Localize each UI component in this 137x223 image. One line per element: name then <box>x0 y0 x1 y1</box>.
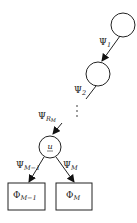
leaf-m-label: ΦM <box>66 190 80 202</box>
edge-psi1-label: Ψ1 <box>99 37 111 49</box>
edge-psi-rm-label: ΨRM <box>38 111 57 123</box>
tree-diagram: Ψ1 Ψ2 ΨRM u ΨM−1 ΨM ΦM−1 ΦM <box>0 0 137 223</box>
node-1-circle <box>111 13 135 37</box>
edge-psi-rm-arrow <box>53 123 62 134</box>
edge-psi2-label: Ψ2 <box>74 85 86 97</box>
vertical-ellipsis <box>76 105 78 117</box>
node-2-circle <box>86 62 110 86</box>
edge-psi2-line <box>86 86 96 99</box>
node-u-label: u <box>48 142 53 151</box>
edge-psi-m-1-label: ΨM−1 <box>16 160 40 172</box>
leaf-m-minus-1-label: ΦM−1 <box>13 190 37 202</box>
